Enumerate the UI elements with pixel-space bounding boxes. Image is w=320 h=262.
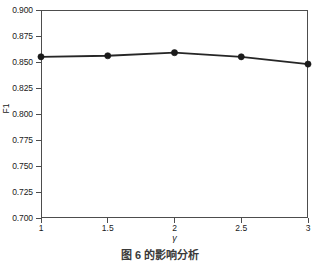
y-axis-tick-label: 0.750 <box>0 162 33 171</box>
x-axis-tick-label: 2.5 <box>226 224 256 233</box>
y-axis-tick <box>36 140 41 141</box>
x-axis-tick-label: 2 <box>160 224 190 233</box>
y-axis-tick-label: 0.700 <box>0 214 33 223</box>
y-axis-tick <box>36 166 41 167</box>
x-axis-tick-label: 1.5 <box>93 224 123 233</box>
y-axis-tick-label: 0.775 <box>0 136 33 145</box>
y-axis-tick <box>36 10 41 11</box>
y-axis-tick <box>36 88 41 89</box>
x-axis-label: γ <box>41 233 308 243</box>
y-axis-tick-label: 0.725 <box>0 188 33 197</box>
y-axis-tick-label: 0.825 <box>0 84 33 93</box>
plot-frame <box>41 10 308 218</box>
y-axis-tick <box>36 36 41 37</box>
y-axis-tick <box>36 192 41 193</box>
figure-caption: 图 6 的影响分析 <box>0 249 320 262</box>
y-axis-tick <box>36 62 41 63</box>
y-axis-label: F1 <box>2 93 11 125</box>
y-axis-tick-label: 0.900 <box>0 6 33 15</box>
y-axis-tick <box>36 114 41 115</box>
x-axis-tick-label: 1 <box>26 224 56 233</box>
y-axis-tick-label: 0.850 <box>0 58 33 67</box>
y-axis-tick-label: 0.875 <box>0 32 33 41</box>
x-axis-tick-label: 3 <box>293 224 320 233</box>
